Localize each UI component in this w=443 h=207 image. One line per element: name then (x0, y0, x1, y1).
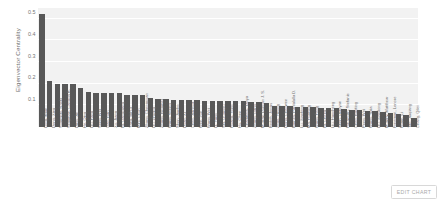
x-tick-label: Murphy, Matthew (384, 97, 389, 128)
x-label-slot: Zhang, Gang (247, 128, 255, 198)
x-tick-label: Shi, Guanglu (222, 104, 227, 128)
x-label-slot: Yang, Bihui (123, 128, 131, 198)
x-label-slot: Hauworth, Stefanie (340, 128, 348, 198)
x-tick-label: Sugimoto, Naoki (59, 98, 64, 128)
x-label-slot: Zhang, Chengyuan (139, 128, 147, 198)
x-label-slot: Shen, Jianbo (170, 128, 178, 198)
x-tick-label: Ding, Jie (74, 112, 79, 128)
x-tick-label: Ni, Gangqiang (121, 102, 126, 128)
x-tick-label: Zhao, Yinong (276, 104, 281, 128)
x-label-slot: He, Qing (77, 128, 85, 198)
x-label-slot: Wang, Sheng (162, 128, 170, 198)
x-tick-label: Zhang, Gang (253, 104, 258, 128)
x-tick-label: Zhang, Chengyuan (144, 93, 149, 128)
x-label-slot: Wang, Feng (309, 128, 317, 198)
x-tick-label: Freeman, Lenore (392, 97, 397, 128)
x-tick-label: Lu, Xiaofeng (299, 105, 304, 128)
x-label-slot: Murray, Duncan J. S. (255, 128, 263, 198)
x-label-slot: Wen, Jun (193, 128, 201, 198)
x-label-slot: Liu, Fang (85, 128, 93, 198)
x-tick-label: Ma, Huiming (307, 105, 312, 128)
x-tick-label: Song, Wei (98, 109, 103, 128)
x-tick-label: Liu, Zhiping (152, 107, 157, 128)
x-tick-label: Mihi, Chun (136, 108, 141, 128)
y-tick-label: 0.4 (28, 32, 38, 37)
x-label-slot: Seligman, Canada R. (61, 128, 69, 198)
x-label-slot: Wang, Yixia (364, 128, 372, 198)
y-tick-label: 0.3 (28, 54, 38, 59)
x-tick-label: Gao, Nan (105, 110, 110, 128)
x-tick-label: Xu, Jiang (113, 111, 118, 128)
x-tick-label: Liu, Haocheng (330, 102, 335, 128)
x-label-slot: Shen, Qiaoyan (333, 128, 341, 198)
x-label-slot: Ni, Gangqiang (116, 128, 124, 198)
x-label-slot: Shi, Guanglu (216, 128, 224, 198)
x-tick-label: Chen, Jianhua (191, 102, 196, 128)
x-label-slot: Chambers, Tanya (240, 128, 248, 198)
x-label-slot: Wang, Wei (201, 128, 209, 198)
x-tick-label: Bodoh, Jonas (268, 103, 273, 128)
x-label-slot: Zhao, Yinong (271, 128, 279, 198)
eigenvector-centrality-bar-chart: Eigenvector Centrality 0.10.20.30.40.5 L… (0, 0, 443, 207)
x-tick-label: Wang, Sheng (167, 103, 172, 128)
x-tick-label: Dong, Chenwen (284, 99, 289, 128)
x-tick-label: Barnes, Pantalalla D. (291, 90, 296, 128)
x-label-slot: Hu, Chen (232, 128, 240, 198)
x-tick-label: Chambers, Tanya (245, 96, 250, 128)
x-tick-label: Tao, Jiaqiang (408, 104, 413, 128)
x-tick-label: Hauworth, Stefanie (346, 93, 351, 128)
x-tick-label: Wen, Jun (198, 111, 203, 128)
bar-slot (85, 8, 93, 127)
x-label-slot: Peng, Wei (356, 128, 364, 198)
x-label-slot: Duan, Xi (178, 128, 186, 198)
x-tick-label: Liu, Xiaodong (377, 103, 382, 128)
x-tick-label: He, Qing (82, 112, 87, 128)
x-tick-label: Seligman, Canada R. (67, 89, 72, 128)
x-label-slot: Liu, Zhiping (147, 128, 155, 198)
x-tick-label: Deng, Xing (51, 108, 56, 128)
x-tick-label: Yang, Bihui (129, 107, 134, 128)
x-label-slot: Deng, Xing (46, 128, 54, 198)
x-label-slot: Murphy, Matthew (379, 128, 387, 198)
x-tick-label: Wang, Feng (315, 106, 320, 128)
x-label-slot: Liu, Haocheng (325, 128, 333, 198)
x-label-slot: Barnes, Pantalalla D. (286, 128, 294, 198)
edit-chart-button[interactable]: EDIT CHART (391, 185, 437, 199)
x-label-slot: Huang, Yong (224, 128, 232, 198)
x-tick-label: Shen, Qiaoyan (338, 101, 343, 128)
x-label-slot: Song, Wei (92, 128, 100, 198)
x-tick-label: Long, Mian (43, 108, 48, 128)
x-label-slot: Ding, Jie (69, 128, 77, 198)
x-tick-label: Huang, Yong (229, 105, 234, 128)
x-label-slot: Ni, Cheng (317, 128, 325, 198)
x-label-slot: Chen, Baoting (348, 128, 356, 198)
x-tick-label: Ruijin, Li (400, 112, 405, 128)
bar-slot (77, 8, 85, 127)
x-tick-label: Murray, Duncan J. S. (260, 90, 265, 128)
x-label-slot: Li, Yang (209, 128, 217, 198)
x-label-slot: Long, Mian (38, 128, 46, 198)
x-tick-label: Hu, Chen (237, 111, 242, 128)
x-tick-label: Liu, Fang (90, 111, 95, 128)
x-tick-label: Duan, Xi (183, 112, 188, 128)
x-axis-labels: Long, MianDeng, XingSugimoto, NaokiSelig… (38, 128, 418, 198)
x-label-slot: Dong, Chenwen (278, 128, 286, 198)
x-tick-label: Shen, Jianbo (175, 104, 180, 128)
x-label-slot: Chen, Jianhua (185, 128, 193, 198)
x-tick-label: Peng, Wei (361, 109, 366, 128)
x-label-slot: Ma, Huiming (302, 128, 310, 198)
x-label-slot: Gao, Nan (100, 128, 108, 198)
x-label-slot: Bodoh, Jonas (263, 128, 271, 198)
y-tick-label: 0.5 (28, 11, 38, 16)
x-label-slot: Mihi, Chun (131, 128, 139, 198)
x-tick-label: Chen, Baoting (353, 102, 358, 128)
x-tick-label: Ni, Cheng (322, 110, 327, 128)
y-axis-title: Eigenvector Centrality (12, 8, 23, 112)
x-tick-label: Wang, Yixia (369, 107, 374, 128)
x-tick-label: Zhang, Bingmei (160, 99, 165, 128)
x-label-slot: Lu, Xiaofeng (294, 128, 302, 198)
x-label-slot: Zhang, Bingmei (154, 128, 162, 198)
x-tick-label: Chang, Qilei (415, 105, 420, 128)
x-tick-label: Wang, Wei (206, 108, 211, 128)
y-tick-label: 0.1 (28, 97, 38, 102)
